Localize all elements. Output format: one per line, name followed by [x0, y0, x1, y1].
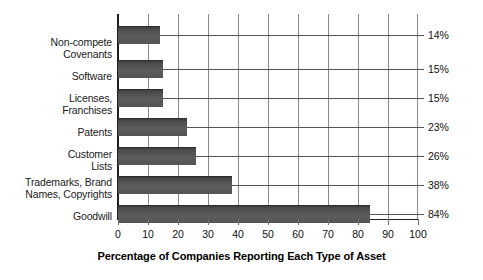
value-label-non-compete-covenants: 14%	[428, 29, 449, 41]
leader-line-patents	[187, 127, 424, 128]
x-tick-label-100: 100	[409, 228, 427, 240]
gridline-70	[328, 14, 329, 219]
x-tick-mark-80	[358, 219, 359, 225]
category-label-trademarks-brand-names: Trademarks, Brand Names, Copyrights	[0, 177, 112, 200]
bar-patents	[118, 118, 187, 136]
category-label-goodwill: Goodwill	[0, 211, 112, 223]
category-label-software: Software	[0, 71, 112, 83]
value-label-trademarks-brand-names: 38%	[428, 179, 449, 191]
leader-line-non-compete-covenants	[160, 35, 424, 36]
category-label-licenses-franchises: Licenses, Franchises	[0, 93, 112, 116]
x-tick-label-40: 40	[232, 228, 244, 240]
x-tick-label-90: 90	[382, 228, 394, 240]
category-axis: Non-compete Covenants Software Licenses,…	[0, 14, 112, 219]
plot-area	[118, 14, 418, 219]
x-tick-label-50: 50	[262, 228, 274, 240]
x-tick-mark-90	[388, 219, 389, 225]
x-tick-mark-100	[418, 219, 419, 225]
gridline-100	[417, 14, 418, 219]
leader-line-customer-lists	[196, 156, 424, 157]
x-tick-label-20: 20	[172, 228, 184, 240]
x-axis-title: Percentage of Companies Reporting Each T…	[0, 250, 483, 262]
bar-licenses-franchises	[118, 89, 163, 107]
x-tick-mark-70	[328, 219, 329, 225]
leader-line-trademarks-brand-names	[232, 185, 424, 186]
x-tick-label-60: 60	[292, 228, 304, 240]
x-tick-label-80: 80	[352, 228, 364, 240]
leader-line-goodwill	[370, 214, 424, 215]
bar-non-compete-covenants	[118, 26, 160, 44]
x-tick-mark-40	[238, 219, 239, 225]
bar-customer-lists	[118, 147, 196, 165]
category-label-customer-lists: Customer Lists	[0, 149, 112, 172]
x-tick-label-0: 0	[115, 228, 121, 240]
value-label-patents: 23%	[428, 121, 449, 133]
category-label-non-compete-covenants: Non-compete Covenants	[0, 37, 112, 60]
bar-chart: Non-compete Covenants Software Licenses,…	[0, 0, 483, 280]
x-tick-mark-50	[268, 219, 269, 225]
x-tick-mark-0	[118, 219, 119, 225]
leader-line-software	[163, 69, 424, 70]
value-label-licenses-franchises: 15%	[428, 92, 449, 104]
value-label-goodwill: 84%	[428, 208, 449, 220]
x-tick-label-10: 10	[142, 228, 154, 240]
gridline-50	[268, 14, 269, 219]
gridline-80	[358, 14, 359, 219]
x-tick-label-30: 30	[202, 228, 214, 240]
leader-line-licenses-franchises	[163, 98, 424, 99]
x-tick-label-70: 70	[322, 228, 334, 240]
x-tick-mark-10	[148, 219, 149, 225]
x-tick-mark-60	[298, 219, 299, 225]
bar-software	[118, 60, 163, 78]
gridline-40	[238, 14, 239, 219]
value-label-customer-lists: 26%	[428, 150, 449, 162]
value-label-software: 15%	[428, 63, 449, 75]
x-tick-mark-20	[178, 219, 179, 225]
bar-trademarks-brand-names	[118, 176, 232, 194]
gridline-60	[298, 14, 299, 219]
bar-goodwill	[118, 205, 370, 223]
category-label-patents: Patents	[0, 127, 112, 139]
gridline-90	[388, 14, 389, 219]
x-tick-mark-30	[208, 219, 209, 225]
